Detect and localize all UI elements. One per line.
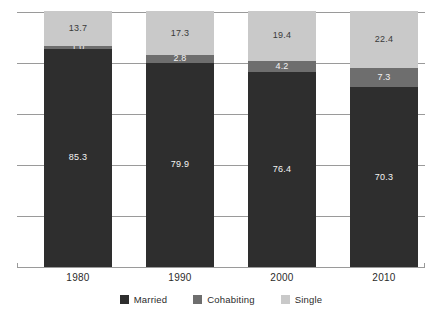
x-axis-line [17,267,425,268]
legend-swatch-married [120,295,129,304]
bar-value-label: 85.3 [69,153,87,162]
bar-segment-married[interactable]: 79.9 [146,63,214,268]
plot-area: 13.7 1.0 85.3 17.3 2.8 79.9 [17,12,425,268]
x-axis-right-cap [424,263,425,268]
legend-item-single[interactable]: Single [281,294,323,305]
bar-value-label: 13.7 [69,24,87,33]
bar-value-label: 4.2 [275,62,288,71]
x-tick-label-2000: 2000 [248,272,316,283]
bar-group-1980[interactable]: 13.7 1.0 85.3 [44,11,112,267]
legend-item-married[interactable]: Married [120,294,168,305]
legend-item-cohabiting[interactable]: Cohabiting [193,294,254,305]
legend-label-single: Single [295,294,323,305]
stacked-bar-chart: 13.7 1.0 85.3 17.3 2.8 79.9 [0,0,442,317]
bar-stack: 17.3 2.8 79.9 [146,11,214,267]
legend-label-married: Married [134,294,168,305]
bar-stack: 22.4 7.3 70.3 [350,11,418,267]
bar-value-label: 76.4 [273,165,291,174]
bar-segment-single[interactable]: 22.4 [350,11,418,68]
x-tick-label-1980: 1980 [44,272,112,283]
bar-value-label: 2.8 [173,55,186,62]
bar-group-1990[interactable]: 17.3 2.8 79.9 [146,11,214,267]
bar-value-label: 17.3 [171,29,189,38]
bar-group-2010[interactable]: 22.4 7.3 70.3 [350,11,418,267]
bar-stack: 13.7 1.0 85.3 [44,11,112,267]
bar-value-label: 7.3 [377,73,390,82]
bar-segment-married[interactable]: 76.4 [248,72,316,268]
bar-segment-married[interactable]: 85.3 [44,49,112,267]
x-axis-left-cap [17,263,18,268]
x-tick-label-2010: 2010 [350,272,418,283]
legend-swatch-cohabiting [193,295,202,304]
bar-value-label: 79.9 [171,160,189,169]
legend-label-cohabiting: Cohabiting [207,294,254,305]
bar-segment-married[interactable]: 70.3 [350,87,418,267]
legend-swatch-single [281,295,290,304]
bar-segment-cohabiting[interactable]: 4.2 [248,61,316,72]
bar-segment-single[interactable]: 13.7 [44,11,112,46]
bar-value-label: 19.4 [273,31,291,40]
bar-segment-cohabiting[interactable]: 2.8 [146,55,214,62]
bar-value-label: 22.4 [375,35,393,44]
bar-group-2000[interactable]: 19.4 4.2 76.4 [248,11,316,267]
x-tick-label-1990: 1990 [146,272,214,283]
bar-segment-single[interactable]: 17.3 [146,11,214,55]
bar-value-label: 70.3 [375,173,393,182]
bar-segment-cohabiting[interactable]: 7.3 [350,68,418,87]
chart-legend: Married Cohabiting Single [0,294,442,305]
bar-stack: 19.4 4.2 76.4 [248,11,316,267]
x-axis-labels: 1980 1990 2000 2010 [17,272,425,288]
bar-segment-single[interactable]: 19.4 [248,11,316,61]
